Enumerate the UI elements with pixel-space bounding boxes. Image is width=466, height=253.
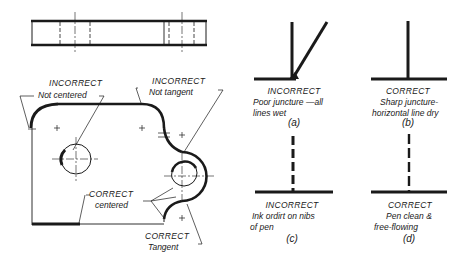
label-incorrect-not-tangent-title: INCORRECT [152,76,205,86]
label-correct-centered-title: CORRECT [89,189,133,199]
label-correct-tangent-subtitle: Tangent [148,242,178,252]
lug-hole [164,152,216,201]
panel-b-status: CORRECT [386,86,430,96]
label-incorrect-not-tangent-subtitle: Not tangent [149,87,193,97]
panel-b-drawing [371,21,447,79]
panel-c-caption: (c) [286,234,298,244]
panel-b-line1: Sharp juncture- [380,97,438,107]
panel-b-caption: (b) [402,118,414,128]
panel-d-status: CORRECT [388,200,432,210]
left-hole [52,137,98,181]
panel-c-line1: Ink ordirt on nibs [252,211,315,221]
panel-a-drawing [254,22,327,79]
panel-a-line1: Poor juncture —all [253,97,323,107]
panel-a-line2: lines wet [253,108,286,118]
label-correct-centered-subtitle: centered [95,200,128,210]
panel-d-line1: Pen clean & [386,211,432,221]
panel-a-caption: (a) [288,118,300,128]
panel-d-line2: free-flowing [374,222,418,232]
panel-d-drawing [371,134,447,192]
panel-c-status: INCORRECT [265,200,318,210]
panel-c-line2: of pen [250,222,274,232]
label-incorrect-not-centered-subtitle: Not centered [38,90,87,100]
panel-c-drawing [255,136,333,192]
label-incorrect-not-centered-title: INCORRECT [49,78,102,88]
label-correct-tangent-title: CORRECT [145,231,189,241]
panel-a-status: INCORRECT [267,86,320,96]
top-edge-view [31,12,207,54]
leader-lines [20,88,223,244]
panel-d-caption: (d) [403,234,415,244]
